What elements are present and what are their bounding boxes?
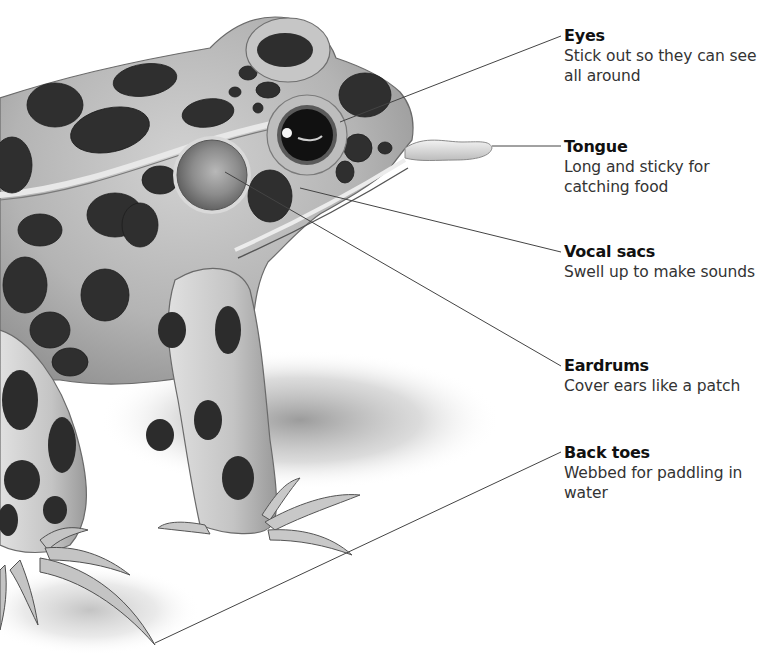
label-eardrums: Eardrums Cover ears like a patch bbox=[564, 356, 759, 396]
label-title: Eyes bbox=[564, 26, 759, 46]
frog-illustration bbox=[0, 0, 761, 665]
label-title: Eardrums bbox=[564, 356, 759, 376]
label-description: Long and sticky for catching food bbox=[564, 157, 759, 197]
label-description: Swell up to make sounds bbox=[564, 262, 759, 282]
eye bbox=[267, 95, 347, 175]
label-eyes: Eyes Stick out so they can see all aroun… bbox=[564, 26, 759, 86]
label-back-toes: Back toes Webbed for paddling in water bbox=[564, 443, 759, 503]
label-description: Stick out so they can see all around bbox=[564, 46, 759, 86]
leader-line-vocal-sacs bbox=[300, 188, 561, 252]
eye-bulge-spot bbox=[257, 33, 313, 67]
leader-line-eardrums bbox=[225, 172, 561, 366]
label-vocal-sacs: Vocal sacs Swell up to make sounds bbox=[564, 242, 759, 282]
front-leg bbox=[168, 269, 276, 534]
label-description: Cover ears like a patch bbox=[564, 376, 759, 396]
label-title: Back toes bbox=[564, 443, 759, 463]
label-title: Tongue bbox=[564, 137, 759, 157]
eardrum bbox=[173, 136, 251, 214]
label-title: Vocal sacs bbox=[564, 242, 759, 262]
label-description: Webbed for paddling in water bbox=[564, 463, 759, 503]
tongue bbox=[405, 140, 492, 160]
ground-shadow-back bbox=[0, 565, 200, 655]
label-tongue: Tongue Long and sticky for catching food bbox=[564, 137, 759, 197]
